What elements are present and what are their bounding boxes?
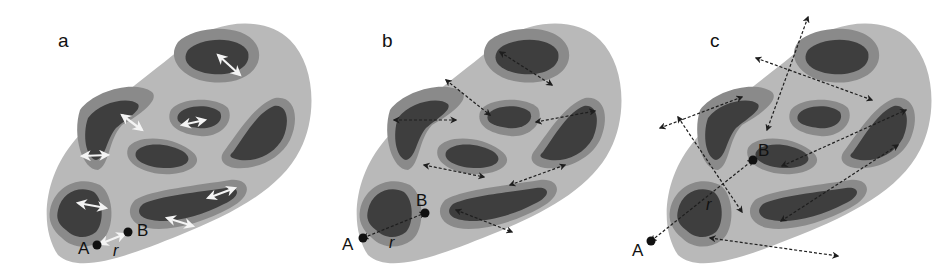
landscape-c — [667, 24, 932, 264]
point-a-dot — [93, 241, 102, 250]
panel-label: c — [710, 30, 720, 51]
point-a-label: A — [78, 239, 90, 258]
panel-c: cABr — [632, 17, 931, 263]
energy-landscape-diagram: aABrbABrcABr — [0, 0, 944, 271]
distance-r-label: r — [113, 242, 119, 259]
point-b-label: B — [758, 141, 769, 160]
panel-label: a — [58, 30, 69, 51]
distance-r-label: r — [706, 196, 712, 213]
point-a-dot — [647, 237, 656, 246]
point-a-label: A — [632, 241, 644, 260]
figure: aABrbABrcABr — [0, 0, 944, 271]
landscape-a — [47, 24, 312, 264]
panel-label: b — [382, 30, 393, 51]
landscape-b — [357, 24, 622, 264]
distance-r-label: r — [389, 234, 395, 251]
double-arrow-icon — [82, 155, 108, 156]
point-a-label: A — [342, 235, 354, 254]
point-b-dot — [124, 228, 133, 237]
point-a-dot — [359, 234, 368, 243]
panels-layer: aABrbABrcABr — [47, 17, 932, 263]
point-b-label: B — [137, 221, 148, 240]
point-b-dot — [749, 156, 758, 165]
panel-a: aABr — [47, 24, 312, 264]
panel-b: bABr — [342, 24, 621, 264]
point-b-label: B — [416, 191, 427, 210]
